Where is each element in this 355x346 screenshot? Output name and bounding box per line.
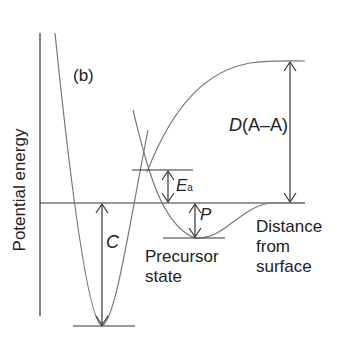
panel-label: (b) <box>73 67 94 84</box>
d-species: (A–A) <box>242 115 288 135</box>
p-label: P <box>200 206 211 223</box>
x-label-line-3: surface <box>256 257 322 277</box>
ea-subscript: a <box>187 182 193 193</box>
x-label-line-2: from <box>256 237 322 257</box>
x-label-line-1: Distance <box>256 217 322 237</box>
d-label: D(A–A) <box>229 116 288 134</box>
potential-energy-diagram <box>0 0 355 346</box>
c-label: C <box>106 233 119 251</box>
ea-label: Ea <box>176 177 193 194</box>
x-axis-label: Distance from surface <box>256 217 322 277</box>
precursor-line-2: state <box>145 267 219 287</box>
y-axis-label: Potential energy <box>10 129 30 252</box>
precursor-line-1: Precursor <box>145 247 219 267</box>
ea-symbol: E <box>176 176 187 195</box>
d-symbol: D <box>229 115 242 135</box>
precursor-state-label: Precursor state <box>145 247 219 287</box>
